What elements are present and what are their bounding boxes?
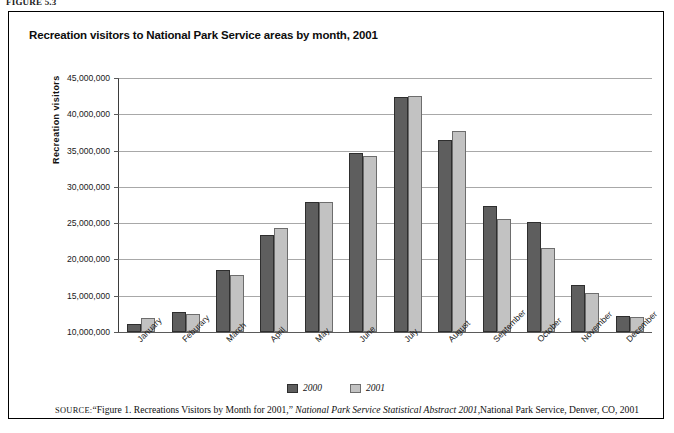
- y-tick-mark: [114, 151, 119, 152]
- y-tick-mark: [114, 296, 119, 297]
- source-text-2: ,National Park Service, Denver, CO, 2001: [478, 404, 639, 415]
- y-tick-mark: [114, 223, 119, 224]
- chart-legend: 20002001: [9, 383, 663, 393]
- y-tick-label: 15,000,000: [67, 291, 110, 301]
- source-note: SOURCE:“Figure 1. Recreations Visitors b…: [55, 404, 649, 417]
- bar-group: [127, 78, 155, 332]
- bar-2000-august: [438, 140, 452, 332]
- y-tick-mark: [114, 114, 119, 115]
- source-prefix: SOURCE:: [55, 406, 92, 415]
- y-tick-mark: [114, 332, 119, 333]
- y-axis-title: Recreation visitors: [51, 150, 61, 164]
- bar-group: [394, 78, 422, 332]
- bar-group: [216, 78, 244, 332]
- y-tick-label: 20,000,000: [67, 254, 110, 264]
- legend-item-2000: 2000: [287, 383, 322, 393]
- figure-label: FIGURE 5.3: [6, 0, 57, 7]
- bar-2001-june: [363, 156, 377, 332]
- bar-2000-january: [127, 324, 141, 332]
- legend-swatch-2001: [350, 384, 361, 393]
- legend-label-2000: 2000: [303, 383, 322, 393]
- bar-group: [438, 78, 466, 332]
- bar-2001-may: [319, 202, 333, 332]
- bar-2000-march: [216, 270, 230, 332]
- bar-2001-july: [408, 96, 422, 332]
- y-axis-line: [118, 78, 119, 332]
- bar-group: [305, 78, 333, 332]
- bar-group: [172, 78, 200, 332]
- bar-2001-september: [497, 219, 511, 332]
- legend-label-2001: 2001: [366, 383, 385, 393]
- bar-2000-feburary: [172, 312, 186, 332]
- bar-2000-may: [305, 202, 319, 332]
- bar-group: [349, 78, 377, 332]
- y-tick-mark: [114, 259, 119, 260]
- bar-group: [571, 78, 599, 332]
- bar-2001-august: [452, 131, 466, 332]
- legend-item-2001: 2001: [350, 383, 385, 393]
- bar-2000-june: [349, 153, 363, 332]
- plot-area: 45,000,00040,000,00035,000,00030,000,000…: [119, 78, 652, 332]
- y-tick-label: 35,000,000: [67, 146, 110, 156]
- bar-2000-april: [260, 235, 274, 332]
- bar-group: [527, 78, 555, 332]
- source-title-italic: National Park Service Statistical Abstra…: [295, 404, 477, 415]
- y-tick-label: 45,000,000: [67, 73, 110, 83]
- bar-2000-july: [394, 97, 408, 332]
- bar-2000-october: [527, 222, 541, 332]
- bar-2000-september: [483, 206, 497, 332]
- source-text-1: “Figure 1. Recreations Visitors by Month…: [92, 404, 295, 415]
- legend-swatch-2000: [287, 384, 298, 393]
- bar-group: [260, 78, 288, 332]
- y-tick-mark: [114, 187, 119, 188]
- bar-group: [616, 78, 644, 332]
- bar-2000-december: [616, 316, 630, 332]
- y-tick-label: 40,000,000: [67, 109, 110, 119]
- y-tick-mark: [114, 78, 119, 79]
- bar-2001-april: [274, 228, 288, 332]
- chart-title: Recreation visitors to National Park Ser…: [29, 29, 378, 41]
- y-tick-label: 10,000,000: [67, 327, 110, 337]
- bar-2000-november: [571, 285, 585, 332]
- bar-group: [483, 78, 511, 332]
- y-tick-label: 25,000,000: [67, 218, 110, 228]
- y-tick-label: 30,000,000: [67, 182, 110, 192]
- figure-frame: Recreation visitors to National Park Ser…: [8, 11, 664, 419]
